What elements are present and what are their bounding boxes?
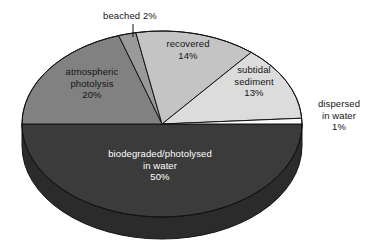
pie-label-subtidal-value: 13%: [213, 87, 295, 99]
pie-chart-figure: beached 2% recovered 14% subtidal sedime…: [0, 0, 373, 246]
pie-label-dispersed-in-water: dispersed in water 1%: [306, 98, 372, 133]
pie-label-beached-line1: beached 2%: [82, 10, 178, 22]
pie-label-recovered-line1: recovered: [146, 38, 230, 50]
pie-label-atmospheric-line1: atmospheric: [44, 66, 140, 78]
pie-label-recovered-value: 14%: [146, 50, 230, 62]
pie-label-atmospheric-value: 20%: [44, 89, 140, 101]
pie-label-recovered: recovered 14%: [146, 38, 230, 61]
pie-label-dispersed-line2: in water: [306, 110, 372, 122]
pie-label-beached: beached 2%: [82, 10, 178, 22]
pie-label-subtidal-line1: subtidal: [213, 64, 295, 76]
pie-label-dispersed-line1: dispersed: [306, 98, 372, 110]
pie-label-atmospheric-photolysis: atmospheric photolysis 20%: [44, 66, 140, 101]
pie-label-dispersed-value: 1%: [306, 121, 372, 133]
pie-label-biodegraded-line2: in water: [78, 160, 242, 172]
pie-label-biodegraded-photolysed: biodegraded/photolysed in water 50%: [78, 148, 242, 183]
pie-label-subtidal-line2: sediment: [213, 76, 295, 88]
pie-label-atmospheric-line2: photolysis: [44, 78, 140, 90]
pie-label-subtidal-sediment: subtidal sediment 13%: [213, 64, 295, 99]
pie-label-biodegraded-value: 50%: [78, 171, 242, 183]
pie-label-biodegraded-line1: biodegraded/photolysed: [78, 148, 242, 160]
